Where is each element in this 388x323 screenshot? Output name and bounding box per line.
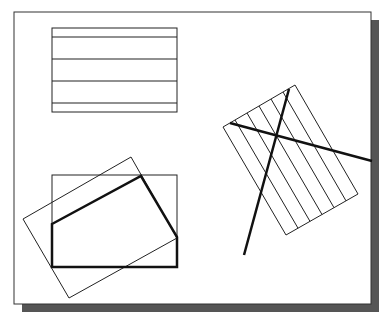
drawing-frame [14, 12, 371, 304]
diagram-canvas [0, 0, 388, 323]
